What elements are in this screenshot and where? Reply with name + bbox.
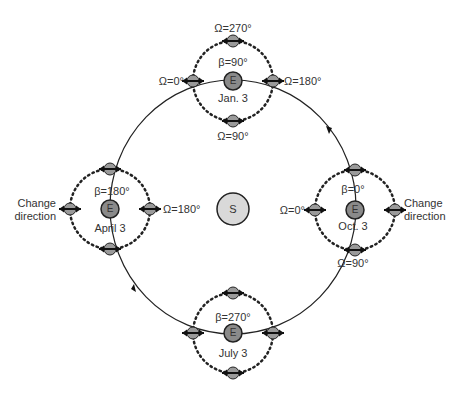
jan-omega-right: Ω=180° — [284, 75, 321, 87]
satellite-icon — [304, 204, 326, 216]
satellite-icon — [262, 327, 284, 339]
satellite-icon — [182, 75, 204, 87]
orbit-arrow-icon — [131, 284, 136, 292]
earth-label-jan: E — [230, 75, 237, 87]
earth-label-oct: E — [352, 204, 359, 216]
jan-omega-top: Ω=270° — [214, 22, 251, 34]
satellite-icon — [99, 163, 121, 175]
april-omega-right: Ω=180° — [163, 203, 200, 215]
april-note-line2: direction — [14, 210, 56, 222]
earth-label-july: E — [230, 327, 237, 339]
sun-label: S — [229, 203, 236, 215]
july-date: July 3 — [219, 347, 248, 359]
april-note-line1: Change — [17, 197, 56, 209]
jan-omega-left: Ω=0° — [159, 75, 184, 87]
satellite-icon — [344, 164, 366, 176]
satellite-icon — [222, 287, 244, 299]
earth-label-april: E — [107, 203, 114, 215]
jan-omega-bottom: Ω=90° — [217, 130, 248, 142]
jan-beta: β=90° — [218, 56, 247, 68]
satellite-icon — [59, 203, 81, 215]
oct-date: Oct. 3 — [338, 220, 367, 232]
jan-date: Jan. 3 — [218, 92, 248, 104]
satellite-icon — [222, 367, 244, 379]
satellite-icon — [222, 35, 244, 47]
oct-note-line1: Change — [404, 197, 443, 209]
oct-note-line2: direction — [404, 210, 446, 222]
satellite-icon — [222, 115, 244, 127]
april-date: April 3 — [94, 222, 125, 234]
satellite-icon — [182, 327, 204, 339]
oct-omega-left: Ω=0° — [280, 204, 305, 216]
oct-beta: β=0° — [341, 183, 364, 195]
april-beta: β=180° — [94, 185, 130, 197]
satellite-icon — [384, 204, 406, 216]
satellite-icon — [139, 203, 161, 215]
oct-omega-bottom: Ω=90° — [337, 257, 368, 269]
july-beta: β=270° — [215, 311, 251, 323]
satellite-icon — [99, 243, 121, 255]
satellite-icon — [262, 75, 284, 87]
